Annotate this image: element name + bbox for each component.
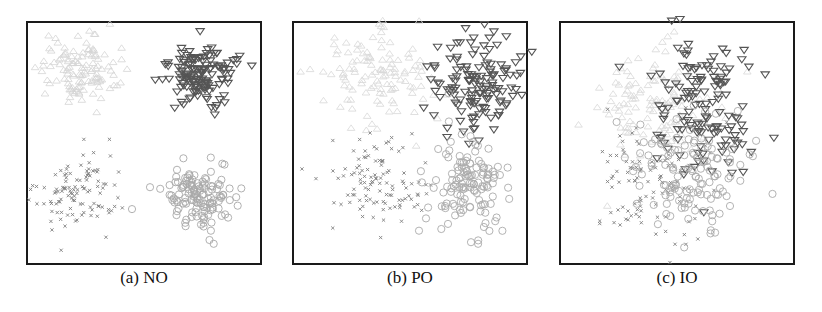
data-point — [171, 105, 179, 111]
data-point — [770, 135, 778, 141]
data-point — [99, 192, 102, 195]
data-point — [637, 87, 645, 93]
data-point — [118, 56, 126, 62]
series-class-3 — [27, 138, 124, 252]
data-point — [337, 177, 340, 180]
data-point — [722, 50, 730, 56]
data-point — [86, 28, 94, 34]
data-point — [617, 181, 620, 184]
data-point — [372, 201, 375, 204]
data-point — [445, 118, 452, 125]
data-point — [416, 203, 419, 206]
data-point — [722, 137, 730, 143]
data-point — [635, 140, 638, 143]
data-point — [352, 188, 355, 191]
data-point — [626, 118, 634, 124]
data-point — [404, 197, 407, 200]
data-point — [636, 176, 639, 179]
data-point — [92, 151, 95, 154]
data-point — [206, 236, 213, 243]
data-point — [35, 202, 38, 205]
data-point — [609, 91, 617, 97]
series-class-2 — [420, 22, 537, 148]
series-class-1 — [31, 21, 131, 115]
data-point — [475, 65, 483, 71]
data-point — [206, 58, 214, 64]
data-point — [300, 167, 303, 170]
data-point — [367, 154, 370, 157]
data-point — [89, 214, 92, 217]
data-point — [626, 209, 629, 212]
data-point — [674, 173, 681, 180]
data-point — [726, 202, 733, 209]
data-point — [640, 221, 643, 224]
data-point — [630, 214, 633, 217]
data-point — [106, 21, 114, 27]
data-point — [344, 49, 352, 55]
data-point — [364, 149, 367, 152]
data-point — [635, 55, 643, 61]
data-point — [618, 134, 621, 137]
data-point — [707, 59, 715, 65]
data-point — [70, 48, 78, 54]
data-point — [67, 194, 70, 197]
data-point — [128, 206, 135, 213]
scatter-plot-c — [559, 21, 795, 265]
data-point — [634, 213, 637, 216]
data-point — [401, 199, 404, 202]
data-point — [447, 45, 455, 51]
data-point — [425, 192, 428, 195]
data-point — [382, 200, 385, 203]
data-point — [332, 201, 335, 204]
data-point — [636, 208, 639, 211]
data-point — [88, 161, 91, 164]
data-point — [659, 39, 667, 45]
data-point — [369, 34, 377, 40]
data-point — [575, 122, 583, 128]
data-point — [598, 219, 601, 222]
data-point — [738, 142, 746, 148]
data-point — [663, 200, 670, 207]
data-point — [418, 68, 426, 74]
data-point — [368, 62, 376, 68]
data-point — [415, 74, 423, 80]
data-point — [446, 56, 454, 62]
data-point — [398, 199, 401, 202]
data-point — [627, 179, 630, 182]
data-point — [352, 149, 355, 152]
data-point — [410, 182, 413, 185]
data-point — [50, 210, 53, 213]
data-point — [238, 185, 245, 192]
data-point — [342, 174, 345, 177]
data-point — [110, 72, 118, 78]
data-point — [740, 47, 748, 53]
data-point — [337, 104, 345, 110]
data-point — [63, 173, 66, 176]
data-point — [482, 209, 489, 216]
data-point — [725, 121, 728, 124]
data-point — [56, 211, 59, 214]
data-point — [644, 115, 652, 121]
data-point — [480, 53, 488, 59]
data-point — [68, 186, 71, 189]
data-point — [50, 228, 53, 231]
data-point — [357, 158, 360, 161]
data-point — [104, 236, 107, 239]
data-point — [59, 218, 62, 221]
data-point — [71, 213, 74, 216]
data-point — [512, 87, 520, 93]
data-point — [485, 35, 493, 41]
data-point — [60, 190, 63, 193]
data-point — [378, 189, 381, 192]
data-point — [645, 152, 652, 159]
data-point — [31, 184, 34, 187]
data-point — [400, 220, 403, 223]
data-point — [402, 78, 410, 84]
data-point — [306, 66, 314, 72]
data-point — [386, 51, 394, 57]
data-point — [651, 196, 654, 199]
data-point — [76, 188, 79, 191]
data-point — [625, 109, 633, 115]
data-point — [350, 173, 353, 176]
data-point — [358, 199, 361, 202]
